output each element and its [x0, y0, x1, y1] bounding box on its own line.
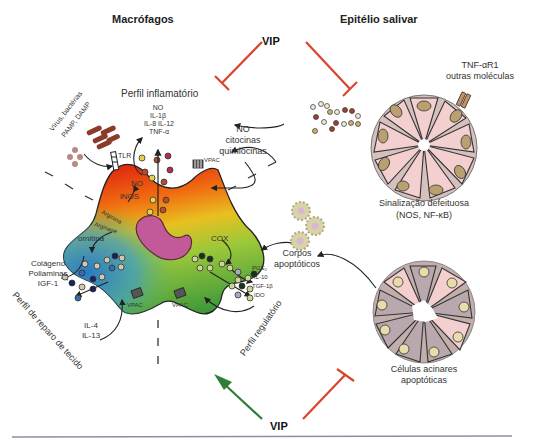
cox-label: COX	[211, 235, 228, 243]
inos-label: iNOS	[120, 193, 139, 201]
inflammatory-mediator-il1b: IL-1β	[145, 112, 171, 120]
no-cytokines-label-quimiocinas: quimiocinas	[216, 146, 270, 157]
apoptotic-cells-label-2: apoptóticas	[376, 375, 472, 386]
vip-activate-arrow-bottom	[214, 374, 262, 419]
vip-inhibit-bottom	[303, 369, 354, 419]
inflammatory-mediator-il8-il12: IL-8 IL-12	[138, 120, 180, 128]
bottom-rule	[12, 436, 512, 437]
other-molecules-label: outras moléculas	[440, 71, 520, 82]
vip-inhibit-macrophage-top	[215, 42, 262, 90]
repair-inducer-il13: IL-13	[78, 330, 104, 341]
regulatory-product-il10: IL-10	[254, 273, 268, 281]
apoptotic-bodies-label-2: apoptóticos	[262, 259, 332, 270]
inflammatory-profile-title: Perfil inflamatório	[121, 88, 198, 99]
vpac-label-top: VPAC	[204, 156, 220, 164]
no-cytokines-label-no: NO	[228, 124, 258, 135]
epithelium-secretions	[311, 102, 361, 134]
tlr-label: TLR	[118, 152, 131, 160]
apoptotic-cells-label: Células acinares	[376, 364, 472, 375]
tnf-receptor-icon	[456, 92, 471, 108]
pamp-damp-dots	[67, 147, 83, 167]
regulatory-product-tgf1b: TGF-1β	[252, 282, 273, 290]
vpac-receptor-icon-top	[193, 160, 203, 168]
ornithine-label: ornitina	[78, 235, 104, 243]
repair-product-igf1: IGF-1	[22, 278, 74, 289]
tnf-receptor-label: TNF-αR1	[440, 60, 520, 71]
inflammatory-mediator-no: NO	[150, 104, 166, 112]
vpac-label-bottom-right: VPAC	[172, 301, 188, 309]
vpac-label-bottom-left: VPAC	[127, 301, 143, 309]
vip-inhibit-epithelium-top	[306, 42, 357, 96]
pathogen-rods	[86, 125, 121, 150]
no-cytokines-label-citocinas: citocinas	[220, 135, 266, 146]
pamp-to-tlr-arrow	[84, 154, 112, 167]
defective-signaling-label: Sinalização defeituosa	[366, 198, 482, 209]
inflammatory-mediator-tnfa: TNF-α	[146, 128, 172, 136]
regulatory-product-ido: IDO	[254, 291, 265, 299]
no-internal-label: NO	[131, 180, 143, 188]
defective-signaling-detail: (NOS, NF-κB)	[366, 210, 482, 221]
apoptotic-bodies-label: Corpos	[262, 248, 332, 259]
salivary-acinus-apoptotic	[373, 261, 475, 363]
salivary-acinus-healthy	[371, 95, 477, 201]
apoptotic-bodies	[291, 202, 324, 250]
